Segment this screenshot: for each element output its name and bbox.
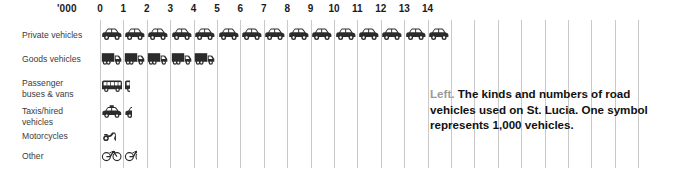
caption-lead: Left.	[430, 87, 454, 100]
bicycle-icon	[101, 148, 123, 163]
caption-text: The kinds and numbers of road vehicles u…	[430, 87, 648, 131]
row-label: Other	[22, 151, 96, 162]
chart-caption: Left. The kinds and numbers of road vehi…	[430, 86, 665, 133]
pictogram-chart: '000 01234567891011121314 Private vehicl…	[0, 0, 675, 180]
row-label-line: Other	[22, 151, 96, 162]
bicycle-icon	[124, 148, 137, 163]
